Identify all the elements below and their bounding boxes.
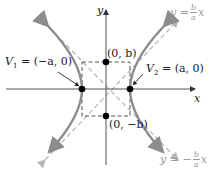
x-axis-label: x — [194, 93, 200, 104]
hyperbola-diagram: y x (0, b) (0, −b) V1 = (−a, 0) V2 = (a,… — [0, 0, 212, 173]
label-v1: V1 = (−a, 0) — [5, 56, 72, 70]
vertex-v1-point — [79, 86, 86, 93]
vertex-v2-point — [127, 86, 134, 93]
asymptote-positive-fraction: b a — [190, 3, 197, 22]
y-axis-label: y — [97, 5, 103, 16]
label-0-b: (0, b) — [107, 48, 137, 59]
label-0-neg-b: (0, −b) — [109, 119, 148, 130]
label-v1-name: V — [5, 55, 13, 68]
fraction-numerator: b — [190, 3, 197, 13]
fraction-denominator: a — [191, 13, 196, 22]
pointer-v1 — [58, 72, 79, 86]
pointer-v2 — [133, 74, 143, 85]
asymptote-positive-var: x — [198, 7, 204, 18]
asymptote-negative-var: x — [201, 154, 207, 165]
asymptote-negative-lhs: y = − — [160, 154, 192, 165]
label-v2-coord: = (a, 0) — [158, 62, 203, 75]
diagram-canvas — [0, 0, 212, 173]
asymptote-negative-fraction: b a — [193, 150, 200, 169]
label-v1-coord: = (−a, 0) — [17, 55, 72, 68]
asymptote-positive-lhs: y = — [170, 7, 189, 18]
label-v2-name: V — [146, 62, 154, 75]
fraction-denominator: a — [194, 160, 199, 169]
fraction-numerator: b — [193, 150, 200, 160]
asymptote-negative-label: y = − b a x — [160, 150, 207, 169]
asymptote-positive-label: y = b a x — [170, 3, 204, 22]
label-v2: V2 = (a, 0) — [146, 63, 204, 77]
